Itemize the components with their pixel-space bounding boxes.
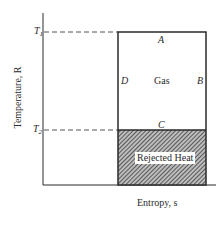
x-axis-label: Entropy, s [137,197,177,208]
edge-d-label: D [121,76,128,86]
edge-a-label: A [158,35,164,45]
rejected-heat-label: Rejected Heat [135,152,195,164]
edge-c-label: C [158,120,165,130]
gas-label: Gas [154,76,170,86]
t1-label: T1 [34,26,43,39]
y-axis-label: Temperature, R [12,43,23,153]
edge-b-label: B [197,76,203,86]
t2-label: T2 [33,124,42,137]
